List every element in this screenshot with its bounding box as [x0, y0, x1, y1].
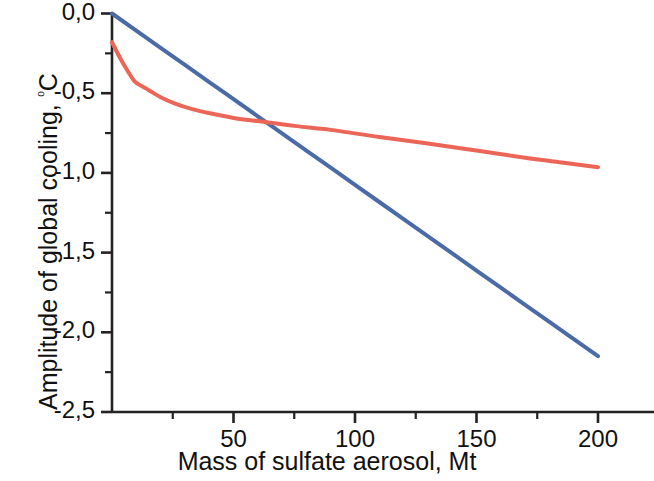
plot-canvas [0, 0, 654, 481]
series-line-linear-response [112, 14, 598, 357]
y-tick-label: -1,5 [0, 237, 95, 265]
series-line-saturating-response [112, 42, 598, 167]
y-tick-label: -2,0 [0, 316, 95, 344]
y-tick-label: 0,0 [0, 0, 95, 26]
x-tick-label: 50 [194, 425, 274, 453]
x-tick-label: 200 [558, 425, 638, 453]
x-tick-marks [173, 412, 598, 423]
y-tick-label: -1,0 [0, 157, 95, 185]
y-axis-title: Amplitude of global cooling, ⁰C [0, 0, 44, 420]
y-tick-label: -2,5 [0, 396, 95, 424]
x-tick-label: 150 [437, 425, 517, 453]
data-series-group [112, 14, 598, 357]
y-tick-marks [101, 14, 112, 413]
x-tick-label: 100 [315, 425, 395, 453]
y-tick-label: -0,5 [0, 77, 95, 105]
chart-figure: Amplitude of global cooling, ⁰C Mass of … [0, 0, 654, 481]
